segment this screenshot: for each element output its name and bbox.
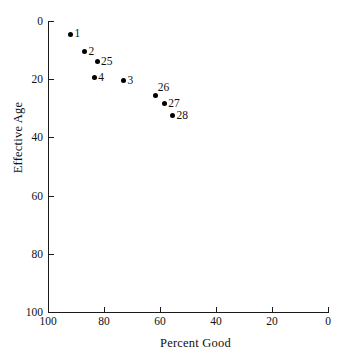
x-tick-100 xyxy=(48,307,49,313)
data-point-26 xyxy=(153,93,158,98)
data-point-label-26: 26 xyxy=(158,81,170,93)
x-tick-label-20: 20 xyxy=(266,315,278,327)
data-point-label-28: 28 xyxy=(177,109,189,121)
x-tick-80 xyxy=(104,307,105,313)
x-tick-0 xyxy=(328,307,329,313)
x-tick-label-100: 100 xyxy=(39,315,56,327)
y-tick-20 xyxy=(48,79,54,80)
x-tick-label-0: 0 xyxy=(325,315,331,327)
y-tick-label-0: 0 xyxy=(37,15,43,27)
data-point-2 xyxy=(82,49,87,54)
data-point-27 xyxy=(162,101,167,106)
y-tick-40 xyxy=(48,137,54,138)
y-tick-label-80: 80 xyxy=(32,248,44,260)
x-tick-60 xyxy=(160,307,161,313)
data-point-label-27: 27 xyxy=(168,97,180,109)
data-point-25 xyxy=(95,59,100,64)
x-axis-line xyxy=(48,312,328,313)
y-tick-label-20: 20 xyxy=(32,73,44,85)
y-axis-line xyxy=(48,21,49,313)
data-point-28 xyxy=(170,113,175,118)
y-tick-60 xyxy=(48,196,54,197)
data-point-4 xyxy=(92,75,97,80)
data-point-label-1: 1 xyxy=(74,27,80,39)
x-tick-40 xyxy=(216,307,217,313)
data-point-label-4: 4 xyxy=(98,71,104,83)
x-tick-label-80: 80 xyxy=(98,315,110,327)
data-point-label-3: 3 xyxy=(128,74,134,86)
data-point-3 xyxy=(121,78,126,83)
x-tick-label-60: 60 xyxy=(154,315,166,327)
data-point-label-25: 25 xyxy=(101,55,113,67)
y-axis-title: Effective Age xyxy=(11,68,26,208)
y-tick-label-40: 40 xyxy=(32,131,44,143)
y-tick-label-60: 60 xyxy=(32,190,44,202)
y-tick-0 xyxy=(48,21,54,22)
x-axis-title: Percent Good xyxy=(0,336,345,351)
data-point-1 xyxy=(68,32,73,37)
x-tick-20 xyxy=(272,307,273,313)
data-point-label-2: 2 xyxy=(88,45,94,57)
x-tick-label-40: 40 xyxy=(210,315,222,327)
scatter-chart: 020406080100 100806040200 122543262728 P… xyxy=(0,0,345,357)
y-tick-80 xyxy=(48,254,54,255)
